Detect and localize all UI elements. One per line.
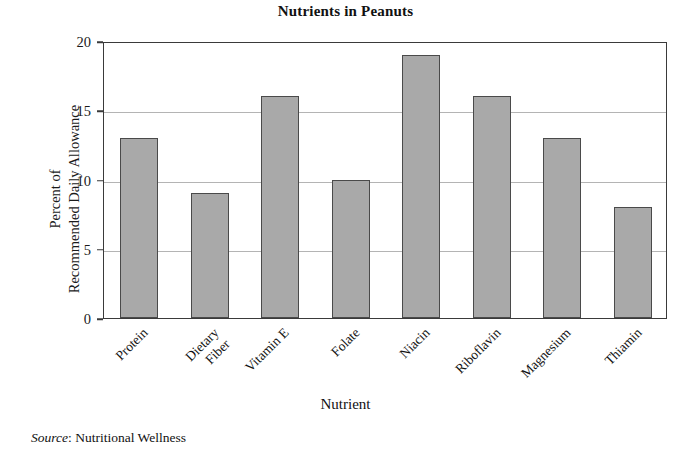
bar-folate: [332, 180, 370, 319]
bar-dietary-fiber: [191, 193, 229, 318]
bar-thiamin: [614, 207, 652, 318]
y-axis-title-line-1: Percent of: [46, 74, 65, 324]
y-tick-label-20: 20: [55, 34, 91, 51]
source-text: Nutritional Wellness: [75, 430, 186, 445]
bar-riboflavin: [473, 96, 511, 318]
bar-vitamin-e: [261, 96, 299, 318]
source-note: Source: Nutritional Wellness: [31, 430, 186, 446]
bar-niacin: [402, 55, 440, 318]
gridline-10: [104, 182, 666, 183]
y-axis-title-line-2: Recommended Daily Allowance: [65, 74, 84, 324]
plot-area: [103, 42, 667, 319]
bar-magnesium: [543, 138, 581, 318]
chart-title: Nutrients in Peanuts: [0, 3, 691, 20]
gridline-15: [104, 112, 666, 113]
source-label: Source: [31, 430, 68, 445]
gridline-5: [104, 251, 666, 252]
y-axis-title: Percent of Recommended Daily Allowance: [46, 74, 84, 324]
bar-protein: [120, 138, 158, 318]
